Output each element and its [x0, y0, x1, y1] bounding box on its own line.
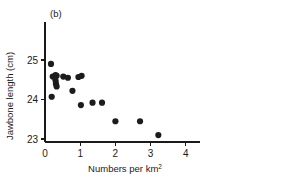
scatter-plot: 232425 01234 (b) Numbers per km2 Jawbone… [0, 0, 296, 181]
data-point [69, 88, 75, 94]
data-point [112, 118, 118, 124]
data-point [48, 61, 54, 67]
data-point [79, 73, 85, 79]
data-point [49, 94, 55, 100]
data-point [65, 75, 71, 81]
figure-panel-b: 232425 01234 (b) Numbers per km2 Jawbone… [0, 0, 296, 181]
panel-label: (b) [50, 8, 62, 19]
data-point [155, 132, 161, 138]
data-point [137, 118, 143, 124]
x-tick-label-3: 3 [148, 148, 154, 159]
x-tick-label-0: 0 [42, 148, 48, 159]
y-tick-label-24: 24 [27, 94, 39, 105]
x-tick-label-1: 1 [77, 148, 83, 159]
x-tick-label-2: 2 [113, 148, 119, 159]
x-axis-title: Numbers per km2 [88, 163, 162, 175]
data-point [89, 100, 95, 106]
y-tick-label-23: 23 [27, 134, 39, 145]
y-tick-label-25: 25 [27, 55, 39, 66]
x-tick-label-4: 4 [183, 148, 189, 159]
data-point [99, 100, 105, 106]
y-axis-title: Jawbone length (cm) [4, 52, 15, 140]
x-axis-title-base: Numbers per km [88, 163, 158, 174]
data-point [54, 83, 60, 89]
x-axis-title-exponent: 2 [158, 163, 162, 170]
data-point [78, 102, 84, 108]
